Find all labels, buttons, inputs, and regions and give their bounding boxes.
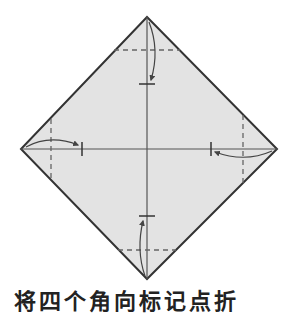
- diagram-caption: 将四个角向标记点折: [14, 283, 239, 315]
- paper-diamond: [21, 17, 277, 279]
